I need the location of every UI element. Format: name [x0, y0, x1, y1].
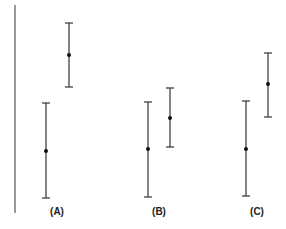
label-a: (A) [50, 206, 64, 217]
error-bar [144, 102, 152, 197]
label-c: (C) [250, 206, 264, 217]
error-bar [242, 101, 250, 196]
error-bar-chart [0, 0, 286, 229]
error-bar [42, 103, 50, 198]
label-b: (B) [152, 206, 166, 217]
error-bar [166, 88, 174, 147]
error-bar [65, 23, 73, 87]
error-bar [264, 53, 272, 117]
